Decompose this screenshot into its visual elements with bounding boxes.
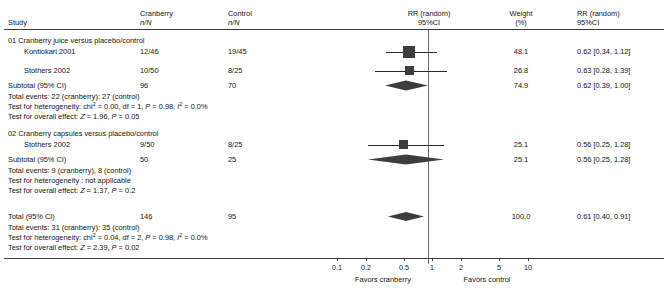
het-tail-total: = 0.0% [182, 233, 207, 242]
eff-z-rest-total: = 2.39, [85, 243, 112, 252]
column-header-plot-sub: 95%CI [388, 18, 470, 27]
eff-p-rest-total: = 0.02 [117, 243, 140, 252]
total-overall-effect-note: Test for overall effect: Z = 2.39, P = 0… [8, 243, 139, 252]
control-value-kontiokari-2001: 19/45 [228, 47, 247, 56]
axis-tick-label-0.1: 0.1 [327, 264, 347, 272]
treatment-value-kontiokari-2001: 12/46 [140, 47, 159, 56]
subtotal-effect-01: 0.62 [0.39, 1.00] [577, 81, 630, 90]
effect-marker-kontiokari-2001 [403, 46, 415, 58]
subgroup-heading-02: 02 Cranberry capsules versus placebo/con… [8, 129, 158, 138]
subtotal-overall-effect-note-02: Test for overall effect: Z = 1.37, P = 0… [8, 186, 135, 195]
het-mid-01: = 0.00, df = 1, [96, 102, 146, 111]
subtotal-treatment-01: 96 [140, 81, 148, 90]
study-label-kontiokari-2001: Kontiokari 2001 [24, 47, 75, 56]
forest-plot-figure: Study Cranberry n/N Control n/N RR (rand… [0, 0, 668, 298]
axis-caption-left: Favors cranberry [330, 276, 436, 284]
column-header-treatment-sub: n/N [140, 18, 152, 27]
het-p-rest-01: = 0.98, [150, 102, 177, 111]
study-label-stothers-2002-juice: Stothers 2002 [24, 66, 70, 75]
column-header-weight-sub: (%) [503, 18, 539, 27]
eff-prefix-total: Test for overall effect: [8, 243, 80, 252]
axis-tick-label-0.5: 0.5 [394, 264, 414, 272]
total-control: 95 [228, 212, 236, 221]
weight-value-kontiokari-2001: 48.1 [503, 47, 539, 56]
column-header-plot-title: RR (random) [388, 9, 470, 18]
het-p-rest-total: = 0.98, [150, 233, 177, 242]
axis-tick-1 [432, 258, 433, 261]
weight-value-stothers-2002-juice: 26.8 [503, 66, 539, 75]
total-heterogeneity-note: Test for heterogeneity: chi2 = 0.04, df … [8, 233, 208, 242]
axis-tick-label-0.2: 0.2 [356, 264, 376, 272]
axis-tick-label-10: 10 [518, 264, 538, 272]
subtotal-diamond-02 [366, 153, 448, 166]
subtotal-label-01: Subtotal (95% CI) [8, 81, 66, 90]
column-header-control-sub: n/N [228, 18, 240, 27]
total-label: Total (95% CI) [8, 212, 55, 221]
eff-p-rest-02: = 0.2 [117, 186, 136, 195]
study-label-stothers-2002-capsules: Stothers 2002 [24, 140, 70, 149]
header-divider [4, 29, 664, 30]
axis-tick-5 [499, 258, 500, 261]
total-effect: 0.61 [0.40, 0.91] [577, 212, 630, 221]
het-prefix-01: Test for heterogeneity: chi [8, 102, 93, 111]
treatment-value-stothers-2002-capsules: 9/50 [140, 140, 154, 149]
het-prefix-total: Test for heterogeneity: chi [8, 233, 93, 242]
effect-marker-stothers-2002-capsules [399, 140, 408, 149]
subtotal-label-02: Subtotal (95% CI) [8, 155, 66, 164]
effect-marker-stothers-2002-juice [405, 66, 414, 75]
control-value-stothers-2002-juice: 8/25 [228, 66, 242, 75]
treatment-value-stothers-2002-juice: 10/50 [140, 66, 159, 75]
subtotal-events-note-02: Total events: 9 (cranberry), 8 (control) [8, 166, 131, 175]
null-effect-line [428, 29, 429, 264]
subtotal-weight-01: 74.9 [503, 81, 539, 90]
column-header-control-title: Control [228, 9, 252, 18]
eff-p-rest-01: = 0.05 [117, 112, 140, 121]
subtotal-control-01: 70 [228, 81, 236, 90]
subtotal-effect-02: 0.56 [0.25, 1.28] [577, 155, 630, 164]
subtotal-control-02: 25 [228, 155, 236, 164]
total-diamond [386, 210, 428, 223]
effect-value-kontiokari-2001: 0.62 [0.34, 1.12] [577, 47, 630, 56]
effect-value-stothers-2002-capsules: 0.56 [0.25, 1.28] [577, 140, 630, 149]
subtotal-treatment-02: 50 [140, 155, 148, 164]
subtotal-heterogeneity-note-02: Test for heterogeneity : not applicable [8, 176, 131, 185]
axis-tick-0.5 [404, 258, 405, 261]
axis-tick-2 [461, 258, 462, 261]
axis-tick-0.1 [337, 258, 338, 261]
column-header-effect-sub: 95%CI [577, 18, 599, 27]
subtotal-diamond-01 [383, 79, 431, 92]
subtotal-overall-effect-note-01: Test for overall effect: Z = 1.96, P = 0… [8, 112, 139, 121]
eff-z-rest-01: = 1.96, [85, 112, 112, 121]
weight-value-stothers-2002-capsules: 25.1 [503, 140, 539, 149]
effect-value-stothers-2002-juice: 0.63 [0.28, 1.39] [577, 66, 630, 75]
eff-prefix-02: Test for overall effect: [8, 186, 80, 195]
axis-tick-0.2 [366, 258, 367, 261]
subtotal-events-note-01: Total events: 22 (cranberry): 27 (contro… [8, 92, 139, 101]
axis-tick-label-1: 1 [423, 264, 441, 272]
eff-z-rest-02: = 1.37, [85, 186, 112, 195]
het-mid-total: = 0.04, df = 2, [96, 233, 146, 242]
axis-tick-10 [528, 258, 529, 261]
axis-tick-label-2: 2 [452, 264, 470, 272]
footer-divider [4, 258, 664, 259]
total-events-note: Total events: 31 (cranberry): 35 (contro… [8, 223, 139, 232]
column-header-effect-title: RR (random) [577, 9, 620, 18]
control-value-stothers-2002-capsules: 8/25 [228, 140, 242, 149]
subtotal-heterogeneity-note-01: Test for heterogeneity: chi2 = 0.00, df … [8, 102, 208, 111]
axis-tick-label-5: 5 [490, 264, 508, 272]
column-header-treatment-title: Cranberry [140, 9, 173, 18]
total-weight: 100.0 [503, 212, 539, 221]
eff-prefix-01: Test for overall effect: [8, 112, 80, 121]
subtotal-weight-02: 25.1 [503, 155, 539, 164]
column-header-study: Study [8, 18, 27, 27]
het-tail-01: = 0.0% [182, 102, 207, 111]
total-treatment: 146 [140, 212, 152, 221]
axis-caption-right: Favors control [434, 276, 540, 284]
subgroup-heading-01: 01 Cranberry juice versus placebo/contro… [8, 36, 144, 45]
column-header-weight-title: Weight [503, 9, 539, 18]
